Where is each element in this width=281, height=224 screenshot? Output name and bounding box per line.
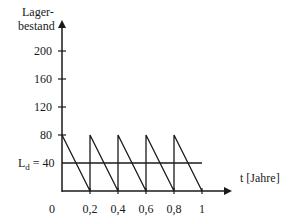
x-tick-label: 0,4	[111, 202, 126, 216]
y-tick-label: 160	[34, 72, 52, 86]
y-tick-label: 80	[40, 128, 52, 142]
x-tick-label: 0,2	[83, 202, 98, 216]
y-tick-label: 120	[34, 100, 52, 114]
y-ticks: 80120160200	[34, 44, 66, 142]
x-axis-label: t [Jahre]	[240, 171, 280, 185]
y-tick-label: 200	[34, 44, 52, 58]
x-ticks: 00,20,40,60,81	[49, 188, 205, 216]
y-axis-label-line2: bestand	[18, 19, 55, 33]
x-tick-label: 0,6	[139, 202, 154, 216]
x-tick-label: 0,8	[167, 202, 182, 216]
x-tick-label: 0	[49, 202, 55, 216]
inventory-chart: Lager- bestand 80120160200 00,20,40,60,8…	[0, 0, 281, 224]
y-axis-label-line1: Lager-	[22, 5, 54, 19]
average-inventory-label: Ld = 40	[18, 156, 55, 172]
x-tick-label: 1	[199, 202, 205, 216]
